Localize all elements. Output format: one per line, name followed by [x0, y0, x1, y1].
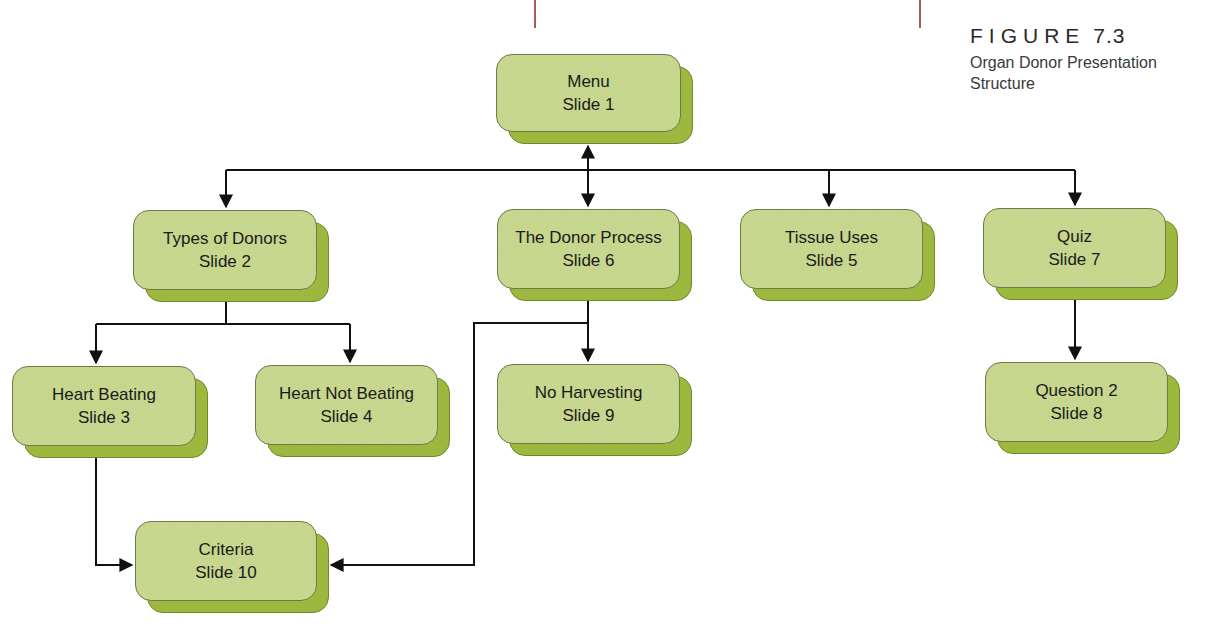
node-question-2: Question 2 Slide 8	[985, 362, 1168, 442]
node-face: The Donor Process Slide 6	[497, 209, 680, 289]
node-slide: Slide 5	[806, 249, 858, 272]
node-face: Heart Not Beating Slide 4	[255, 365, 438, 445]
node-slide: Slide 9	[563, 404, 615, 427]
node-slide: Slide 4	[321, 405, 373, 428]
diagram-canvas: Menu Slide 1 Types of Donors Slide 2 The…	[0, 0, 1225, 637]
figure-caption: FIGURE7.3 Organ Donor Presentation Struc…	[970, 24, 1225, 94]
node-no-harvesting: No Harvesting Slide 9	[497, 364, 680, 444]
node-title: No Harvesting	[535, 381, 643, 404]
connector-heart-beating-criteria	[96, 458, 132, 565]
node-slide: Slide 8	[1051, 402, 1103, 425]
node-tissue-uses: Tissue Uses Slide 5	[740, 209, 923, 289]
node-title: Heart Not Beating	[279, 382, 414, 405]
node-slide: Slide 10	[195, 561, 256, 584]
node-title: Types of Donors	[163, 227, 287, 250]
node-criteria: Criteria Slide 10	[135, 521, 317, 601]
node-quiz: Quiz Slide 7	[983, 208, 1166, 288]
node-face: Quiz Slide 7	[983, 208, 1166, 288]
node-face: Question 2 Slide 8	[985, 362, 1168, 442]
figure-title-line1: Organ Donor Presentation	[970, 52, 1225, 73]
figure-title: Organ Donor Presentation Structure	[970, 52, 1225, 94]
figure-label-text: FIGURE	[970, 24, 1085, 47]
node-menu: Menu Slide 1	[496, 54, 681, 132]
node-types-of-donors: Types of Donors Slide 2	[133, 210, 317, 290]
node-heart-not-beating: Heart Not Beating Slide 4	[255, 365, 438, 445]
node-slide: Slide 2	[199, 250, 251, 273]
node-slide: Slide 6	[563, 249, 615, 272]
node-donor-process: The Donor Process Slide 6	[497, 209, 680, 289]
node-heart-beating: Heart Beating Slide 3	[12, 366, 196, 446]
node-face: Types of Donors Slide 2	[133, 210, 317, 290]
node-face: Menu Slide 1	[496, 54, 681, 132]
node-title: Heart Beating	[52, 383, 156, 406]
node-title: Question 2	[1035, 379, 1117, 402]
figure-title-line2: Structure	[970, 73, 1225, 94]
figure-number: 7.3	[1093, 24, 1125, 47]
node-title: Menu	[567, 70, 610, 93]
node-slide: Slide 3	[78, 406, 130, 429]
node-slide: Slide 7	[1049, 248, 1101, 271]
node-face: No Harvesting Slide 9	[497, 364, 680, 444]
figure-label: FIGURE7.3	[970, 24, 1225, 48]
node-title: Quiz	[1057, 225, 1092, 248]
node-title: Tissue Uses	[785, 226, 878, 249]
node-face: Tissue Uses Slide 5	[740, 209, 923, 289]
node-title: The Donor Process	[515, 226, 661, 249]
node-face: Criteria Slide 10	[135, 521, 317, 601]
node-face: Heart Beating Slide 3	[12, 366, 196, 446]
node-title: Criteria	[199, 538, 254, 561]
node-slide: Slide 1	[563, 93, 615, 116]
